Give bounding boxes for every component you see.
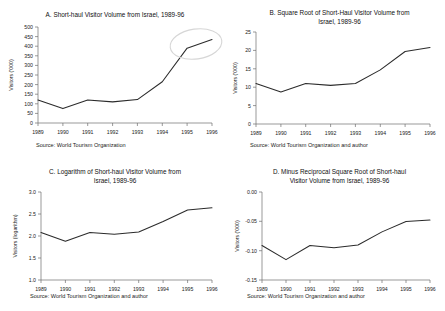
panel-c-ytick-2p0: 2.0 [29,233,36,239]
panel-a-xtick-1989: 1989 [32,129,44,135]
panel-d-ytick-m015: -0.15 [245,277,257,283]
panel-c-ylabel: Visitors (logarithm) [12,214,18,257]
panel-a-source: Source: World Tourism Organization [36,142,126,148]
panel-a-ytick-0: 0 [30,120,33,126]
panel-c-xtick-1993: 1993 [133,286,145,292]
panel-d-xtick-1990: 1990 [280,286,292,292]
panel-d-ytick-000: 0.00 [247,189,257,195]
panel-a-xtick-1996: 1996 [206,129,218,135]
panel-b-ytick-15: 15 [245,66,251,72]
figure-grid: A. Short-haul Visitor Volume from Israel… [0,0,445,311]
panel-a-ytick-300: 300 [24,62,33,68]
panel-c-xtick-1996: 1996 [206,286,218,292]
panel-d-ytick-m005: -0.05 [245,218,257,224]
panel-a-x-axis: 1989 1990 1991 1992 1993 1994 1995 1996 [32,123,218,135]
panel-b-ytick-0: 0 [248,121,251,127]
panel-c-xtick-1991: 1991 [84,286,96,292]
panel-a-ytick-350: 350 [24,52,33,58]
panel-b-ytick-5: 5 [248,103,251,109]
panel-b-xtick-1993: 1993 [350,130,362,136]
panel-c-xtick-1995: 1995 [182,286,194,292]
panel-d-xtick-1996: 1996 [424,286,436,292]
panel-a-title: A. Short-haul Visitor Volume from Israel… [0,0,230,20]
panel-a-ytick-150: 150 [24,91,33,97]
panel-a-ytick-400: 400 [24,43,33,49]
panel-d-x-axis: 1989 1990 1991 1992 1993 1994 1995 1996 [256,280,436,292]
panel-d-xtick-1994: 1994 [376,286,388,292]
panel-a-ytick-250: 250 [24,72,33,78]
panel-b-source: Source: World Tourism Organization and a… [250,142,368,148]
panel-b-svg: 0 5 10 15 20 25 Visitors ('000) [230,26,445,138]
panel-b-xtick-1996: 1996 [424,130,436,136]
panel-c-xtick-1989: 1989 [35,286,47,292]
panel-d-ylabel: Visitors ('000) [234,220,240,252]
panel-a-ytick-450: 450 [24,33,33,39]
panel-b-xtick-1995: 1995 [399,130,411,136]
panel-b-xtick-1990: 1990 [275,130,287,136]
panel-c-ytick-1p5: 1.5 [29,255,36,261]
panel-c-xtick-1992: 1992 [109,286,121,292]
panel-d-xtick-1995: 1995 [400,286,412,292]
panel-c-y-axis: 1.0 1.5 2.0 2.5 3.0 Visitors (logarithm) [12,189,41,283]
panel-b-ytick-20: 20 [245,48,251,54]
panel-c-xtick-1990: 1990 [60,286,72,292]
panel-d-title: D. Minus Reciprocal Square Root of Short… [230,160,445,185]
panel-a-plot: 0 50 100 150 200 250 300 350 400 450 500… [0,20,230,140]
panel-d-xtick-1991: 1991 [304,286,316,292]
panel-a-y-ticks [35,27,38,123]
panel-a-svg: 0 50 100 150 200 250 300 350 400 450 500… [0,20,230,140]
panel-b-xtick-1991: 1991 [300,130,312,136]
panel-c-xtick-1994: 1994 [157,286,169,292]
panel-d-ytick-m010: -0.10 [245,248,257,254]
panel-a-y-axis: 0 50 100 150 200 250 300 350 400 450 500… [8,24,38,126]
panel-a-ytick-100: 100 [24,100,33,106]
panel-a-ytick-200: 200 [24,81,33,87]
panel-c-svg: 1.0 1.5 2.0 2.5 3.0 Visitors (logarithm) [0,185,230,297]
panel-b-plot: 0 5 10 15 20 25 Visitors ('000) [230,26,445,138]
panel-c-series-line [41,208,212,241]
panel-b-ytick-10: 10 [245,84,251,90]
panel-a-xtick-1992: 1992 [107,129,119,135]
panel-a-ytick-50: 50 [27,110,33,116]
panel-b: B. Square Root of Short-Haul Visitor Vol… [230,0,445,160]
panel-c-ytick-2p5: 2.5 [29,211,36,217]
panel-b-y-axis: 0 5 10 15 20 25 Visitors ('000) [232,29,256,127]
panel-a-xtick-1994: 1994 [157,129,169,135]
panel-a: A. Short-haul Visitor Volume from Israel… [0,0,230,160]
panel-a-xtick-1993: 1993 [132,129,144,135]
panel-d-xtick-1989: 1989 [256,286,268,292]
panel-d-series-line [262,220,430,260]
panel-d-plot: -0.15 -0.10 -0.05 0.00 Visitors ('000) [230,185,445,297]
panel-a-series-line [38,39,212,108]
panel-c: C. Logarithm of Short-haul Visitor Volum… [0,160,230,311]
panel-b-title: B. Square Root of Short-Haul Visitor Vol… [230,0,445,26]
panel-b-xtick-1994: 1994 [375,130,387,136]
panel-d-svg: -0.15 -0.10 -0.05 0.00 Visitors ('000) [230,185,445,297]
panel-a-xtick-1991: 1991 [82,129,94,135]
panel-c-ytick-1p0: 1.0 [29,277,36,283]
panel-d: D. Minus Reciprocal Square Root of Short… [230,160,445,311]
panel-b-x-axis: 1989 1990 1991 1992 1993 1994 1995 1996 [250,124,436,136]
panel-c-title: C. Logarithm of Short-haul Visitor Volum… [0,160,230,185]
panel-a-highlight-ellipse [168,25,224,62]
panel-a-xtick-1995: 1995 [181,129,193,135]
panel-a-xtick-1990: 1990 [57,129,69,135]
panel-b-ylabel: Visitors ('000) [232,62,238,94]
panel-c-ytick-3p0: 3.0 [29,189,36,195]
panel-d-source: Source: World Tourism Organization and a… [247,293,365,299]
panel-a-ytick-500: 500 [24,24,33,30]
panel-c-source: Source: World Tourism Organization and a… [30,293,148,299]
panel-c-x-axis: 1989 1990 1991 1992 1993 1994 1995 1996 [35,280,218,292]
panel-d-xtick-1992: 1992 [328,286,340,292]
panel-d-y-axis: -0.15 -0.10 -0.05 0.00 Visitors ('000) [234,189,262,283]
panel-b-xtick-1989: 1989 [250,130,262,136]
panel-b-ytick-25: 25 [245,29,251,35]
panel-b-series-line [256,48,430,93]
panel-d-xtick-1993: 1993 [352,286,364,292]
panel-c-plot: 1.0 1.5 2.0 2.5 3.0 Visitors (logarithm) [0,185,230,297]
panel-a-ylabel: Visitors ('000) [8,59,14,91]
panel-b-xtick-1992: 1992 [325,130,337,136]
